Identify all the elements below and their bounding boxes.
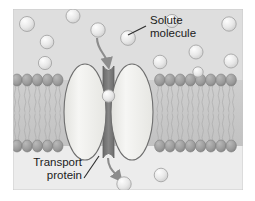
lipid-head bbox=[165, 74, 175, 86]
diagram-canvas: Solute molecule Transport protein bbox=[0, 0, 255, 201]
lipid-head bbox=[206, 140, 216, 152]
lipid-head bbox=[42, 74, 52, 86]
lipid-head bbox=[216, 74, 226, 86]
lipid-head bbox=[42, 140, 52, 152]
solute-molecule bbox=[38, 56, 51, 69]
lipid-head bbox=[53, 74, 63, 86]
solute-molecule bbox=[66, 9, 80, 23]
lipid-head bbox=[175, 140, 185, 152]
solute-molecule bbox=[153, 55, 167, 69]
lipid-head bbox=[216, 140, 226, 152]
solute-molecule bbox=[20, 17, 35, 32]
transport-protein bbox=[64, 64, 153, 160]
lipid-head bbox=[32, 140, 42, 152]
lipid-head bbox=[226, 140, 236, 152]
protein-left-lobe bbox=[64, 64, 106, 160]
solute-molecule bbox=[224, 54, 238, 68]
solute-molecule bbox=[91, 23, 105, 37]
lipid-head bbox=[22, 74, 32, 86]
transport-protein-figure: Solute molecule Transport protein bbox=[0, 0, 255, 201]
lipid-head bbox=[155, 74, 165, 86]
solute-molecule bbox=[193, 67, 203, 77]
solute-molecule bbox=[40, 35, 54, 49]
label-solute-molecule-line1: Solute bbox=[150, 14, 183, 26]
lipid-head bbox=[32, 74, 42, 86]
lipid-head bbox=[226, 74, 236, 86]
lipid-head bbox=[155, 140, 165, 152]
solute-molecule bbox=[222, 17, 236, 31]
solute-molecule bbox=[154, 168, 168, 182]
lipid-head bbox=[206, 74, 216, 86]
lipid-head bbox=[165, 140, 175, 152]
solute-molecule bbox=[117, 177, 131, 191]
solute-molecule bbox=[189, 45, 203, 59]
solute-in-channel bbox=[102, 90, 114, 102]
lipid-head bbox=[185, 140, 195, 152]
lipid-head bbox=[195, 140, 205, 152]
lipid-head bbox=[22, 140, 32, 152]
label-transport-protein-line2: protein bbox=[47, 169, 82, 181]
lipid-head bbox=[53, 140, 63, 152]
protein-right-lobe bbox=[111, 64, 153, 160]
label-transport-protein-line1: Transport bbox=[33, 156, 83, 168]
label-solute-molecule-line2: molecule bbox=[150, 27, 196, 39]
lipid-head bbox=[175, 74, 185, 86]
